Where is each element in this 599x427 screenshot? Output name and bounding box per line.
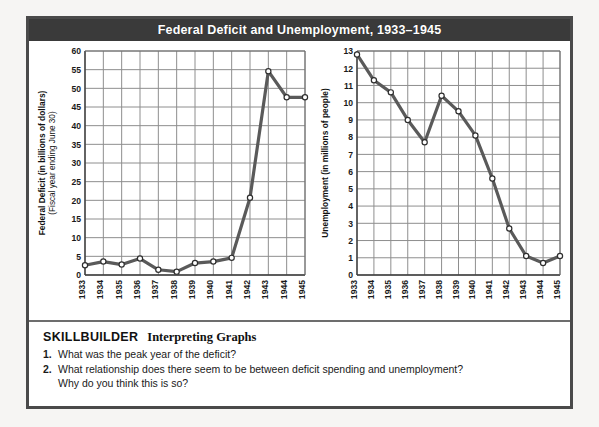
x-tick-label: 1938 xyxy=(169,280,179,299)
y-tick-label: 35 xyxy=(71,140,81,150)
y-tick-label: 3 xyxy=(348,219,353,229)
data-point xyxy=(229,255,234,260)
data-point xyxy=(119,262,124,267)
y-tick-label: 5 xyxy=(348,184,353,194)
y-tick-labels: 051015202530354045505560 xyxy=(71,46,81,280)
x-tick-label: 1944 xyxy=(279,280,289,299)
page-background: Federal Deficit and Unemployment, 1933–1… xyxy=(0,0,599,427)
y-tick-label: 40 xyxy=(71,121,81,131)
x-tick-label: 1943 xyxy=(518,280,528,299)
x-tick-label: 1940 xyxy=(205,280,215,299)
question-text-line2: Why do you think this is so? xyxy=(58,377,556,391)
data-point xyxy=(354,52,359,57)
data-point xyxy=(302,95,307,100)
y-tick-label: 0 xyxy=(76,270,81,280)
y-tick-label: 12 xyxy=(343,64,353,74)
data-point xyxy=(192,260,197,265)
data-point xyxy=(101,259,106,264)
x-tick-label: 1944 xyxy=(535,280,545,299)
chart-unemployment-svg: 0123456789101112131933193419351936193719… xyxy=(317,41,570,320)
y-tick-label: 7 xyxy=(348,150,353,160)
x-tick-labels: 1933193419351936193719381939194019411942… xyxy=(349,280,562,299)
y-tick-label: 13 xyxy=(343,46,353,56)
data-point xyxy=(82,263,87,268)
y-tick-label: 10 xyxy=(343,98,353,108)
data-point xyxy=(388,90,393,95)
data-point xyxy=(507,226,512,231)
question-text-line1: What relationship does there seem to be … xyxy=(58,363,463,375)
x-tick-label: 1945 xyxy=(552,280,562,299)
x-tick-label: 1941 xyxy=(224,280,234,299)
y-tick-label: 2 xyxy=(348,236,353,246)
x-tick-label: 1935 xyxy=(114,280,124,299)
data-point xyxy=(540,260,545,265)
x-tick-label: 1943 xyxy=(260,280,270,299)
x-tick-label: 1939 xyxy=(187,280,197,299)
skillbuilder-heading: SKILLBUILDER Interpreting Graphs xyxy=(43,330,556,345)
x-tick-label: 1933 xyxy=(77,280,87,299)
y-tick-label: 1 xyxy=(348,253,353,263)
x-tick-label: 1933 xyxy=(349,280,359,299)
data-point xyxy=(473,133,478,138)
data-point xyxy=(490,176,495,181)
data-point xyxy=(524,253,529,258)
y-tick-label: 50 xyxy=(71,84,81,94)
y-tick-label: 5 xyxy=(76,252,81,262)
page-title: Federal Deficit and Unemployment, 1933–1… xyxy=(158,23,442,37)
skillbuilder-section: SKILLBUILDER Interpreting Graphs 1. What… xyxy=(29,322,570,406)
y-tick-label: 55 xyxy=(71,65,81,75)
data-point xyxy=(439,93,444,98)
data-point xyxy=(137,256,142,261)
x-tick-label: 1937 xyxy=(150,280,160,299)
y-tick-label: 25 xyxy=(71,177,81,187)
y-tick-label: 30 xyxy=(71,158,81,168)
data-point xyxy=(557,253,562,258)
figure-frame: Federal Deficit and Unemployment, 1933–1… xyxy=(26,16,573,409)
x-tick-label: 1942 xyxy=(242,280,252,299)
x-tick-label: 1936 xyxy=(400,280,410,299)
question-text: What was the peak year of the deficit? xyxy=(58,348,556,362)
y-axis-label: Unemployment (in millions of people) xyxy=(320,88,330,238)
data-point xyxy=(456,109,461,114)
x-tick-label: 1936 xyxy=(132,280,142,299)
y-tick-labels: 012345678910111213 xyxy=(343,46,353,280)
y-tick-label: 20 xyxy=(71,196,81,206)
x-tick-label: 1945 xyxy=(297,280,307,299)
x-tick-label: 1934 xyxy=(95,280,105,299)
data-point xyxy=(174,269,179,274)
question-number: 1. xyxy=(43,348,58,362)
chart-federal-deficit: 0510152025303540455055601933193419351936… xyxy=(31,41,313,320)
y-tick-label: 45 xyxy=(71,102,81,112)
y-axis-label: Federal Deficit (in billions of dollars) xyxy=(37,90,47,235)
data-point xyxy=(422,140,427,145)
skillbuilder-question-2: 2. What relationship does there seem to … xyxy=(43,363,556,391)
data-point xyxy=(156,267,161,272)
x-tick-label: 1935 xyxy=(383,280,393,299)
skillbuilder-subheading: Interpreting Graphs xyxy=(147,330,256,345)
y-tick-label: 15 xyxy=(71,214,81,224)
y-tick-label: 4 xyxy=(348,201,353,211)
x-tick-label: 1941 xyxy=(484,280,494,299)
y-axis-sublabel: (Fiscal year ending June 30) xyxy=(48,111,57,215)
x-tick-label: 1934 xyxy=(366,280,376,299)
x-tick-label: 1940 xyxy=(467,280,477,299)
chart-unemployment: 0123456789101112131933193419351936193719… xyxy=(317,41,570,320)
graphs-container: 0510152025303540455055601933193419351936… xyxy=(29,41,570,320)
y-tick-label: 0 xyxy=(348,270,353,280)
question-text: What relationship does there seem to be … xyxy=(58,363,556,391)
x-tick-labels: 1933193419351936193719381939194019411942… xyxy=(77,280,307,299)
x-tick-label: 1938 xyxy=(434,280,444,299)
question-number: 2. xyxy=(43,363,58,377)
data-point xyxy=(266,69,271,74)
skillbuilder-question-1: 1. What was the peak year of the deficit… xyxy=(43,348,556,362)
y-tick-label: 10 xyxy=(71,233,81,243)
y-tick-label: 6 xyxy=(348,167,353,177)
figure-title-bar: Federal Deficit and Unemployment, 1933–1… xyxy=(29,19,570,41)
x-tick-label: 1942 xyxy=(501,280,511,299)
chart-deficit-svg: 0510152025303540455055601933193419351936… xyxy=(31,41,313,320)
y-tick-label: 11 xyxy=(344,81,353,91)
y-tick-label: 60 xyxy=(71,46,81,56)
data-point xyxy=(371,78,376,83)
data-point xyxy=(284,95,289,100)
x-tick-label: 1937 xyxy=(417,280,427,299)
